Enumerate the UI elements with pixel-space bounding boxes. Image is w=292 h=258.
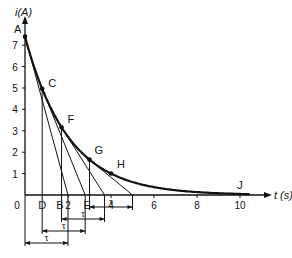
y-tick-label: 1: [12, 169, 18, 180]
decay-curve-plot: i(A)t (s)12345672468100ACFGHJDBEττττ: [0, 0, 292, 258]
y-tick-label: 7: [12, 40, 18, 51]
x-tick-label: 8: [194, 200, 200, 211]
label-h: H: [117, 158, 125, 170]
tau-label: τ: [45, 233, 49, 243]
arrowhead-icon: [80, 229, 85, 233]
label-g: G: [95, 144, 104, 156]
tangent-line: [90, 160, 133, 195]
x-axis-arrow-icon: [264, 192, 272, 198]
label-b: B: [56, 199, 63, 211]
point-c: [40, 87, 45, 92]
label-a: A: [14, 23, 22, 35]
y-tick-label: 5: [12, 83, 18, 94]
y-tick-label: 2: [12, 147, 18, 158]
y-tick-label: 3: [12, 126, 18, 137]
point-g: [87, 157, 92, 162]
tau-label: τ: [62, 221, 66, 231]
x-axis-label: t (s): [274, 189, 292, 201]
x-tick-label: 10: [234, 200, 246, 211]
point-f: [59, 125, 64, 130]
point-a: [23, 34, 28, 39]
y-axis-label: i(A): [15, 6, 32, 18]
label-f: F: [68, 113, 75, 125]
time-constant-diagram: i(A)t (s)12345672468100ACFGHJDBEττττ: [0, 0, 292, 258]
arrowhead-icon: [63, 241, 68, 245]
arrowhead-icon: [100, 217, 105, 221]
y-tick-label: 4: [12, 104, 18, 115]
arrowhead-icon: [25, 241, 30, 245]
origin-label: 0: [14, 200, 20, 211]
tau-label: τ: [81, 209, 85, 219]
point-h: [109, 171, 114, 176]
y-tick-label: 6: [12, 62, 18, 73]
label-j: J: [237, 179, 243, 191]
decay-curve: [25, 37, 250, 195]
tangent-line: [62, 127, 105, 195]
tau-label: τ: [109, 197, 113, 207]
x-tick-label: 6: [151, 200, 157, 211]
arrowhead-icon: [128, 205, 133, 209]
label-c: C: [48, 77, 56, 89]
